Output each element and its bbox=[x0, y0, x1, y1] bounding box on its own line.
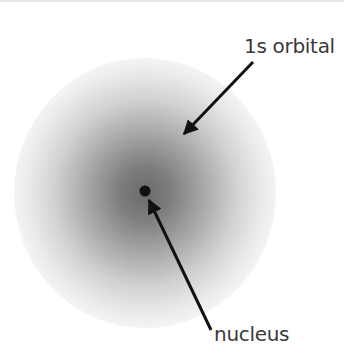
orbital-diagram: 1s orbital nucleus bbox=[0, 0, 344, 363]
nucleus-dot bbox=[140, 186, 151, 197]
nucleus-label: nucleus bbox=[214, 322, 289, 346]
orbital-label: 1s orbital bbox=[244, 34, 335, 58]
